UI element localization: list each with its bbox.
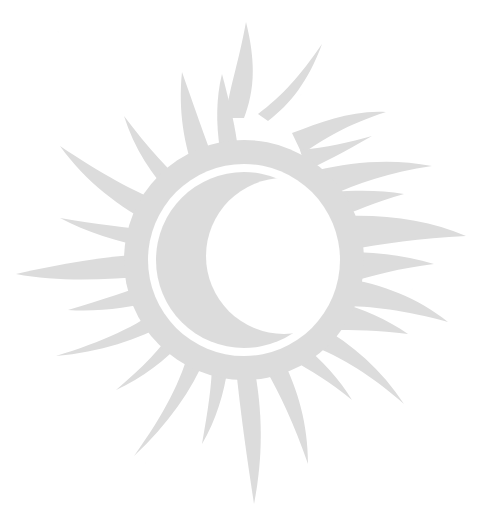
sun-moon-emblem: Stylised sun with flame-like rays surrou… [0,0,485,526]
image-canvas: Sun with crescent moon eclipse emblem St… [0,0,485,526]
crescent-moon [0,0,485,526]
